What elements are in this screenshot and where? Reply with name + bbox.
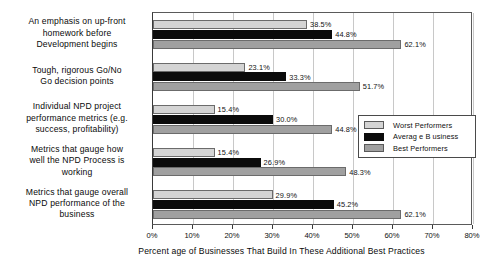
bar-worst[interactable] <box>153 190 273 199</box>
legend-label-worst: Worst Performers <box>393 121 452 130</box>
bar-value-label: 48.3% <box>349 168 370 177</box>
x-axis-tickmark <box>392 225 393 229</box>
bar-value-label: 44.8% <box>335 30 356 39</box>
legend-item-average-business[interactable]: Averag e B usiness <box>364 132 470 142</box>
bar-value-label: 45.2% <box>337 200 358 209</box>
bar-best[interactable] <box>153 167 346 176</box>
y-axis-category-label: Tough, rigorous Go/No Go decision points <box>4 65 150 88</box>
legend: Worst Performers Averag e B usiness Best… <box>358 115 476 158</box>
bar-value-label: 29.9% <box>276 191 297 200</box>
y-axis-category-label: Metrics that gauge overall NPD performan… <box>4 187 150 221</box>
bar-average[interactable] <box>153 115 273 124</box>
legend-swatch-icon-average <box>364 133 384 141</box>
bar-value-label: 26.9% <box>264 158 285 167</box>
bar-average[interactable] <box>153 72 286 81</box>
x-axis-tickmark <box>472 225 473 229</box>
bar-best[interactable] <box>153 125 332 134</box>
bar-best[interactable] <box>153 82 360 91</box>
bar-worst[interactable] <box>153 20 307 29</box>
legend-swatch-icon-best <box>364 144 384 152</box>
x-axis-tick-label: 40% <box>304 231 319 241</box>
legend-label-best: Best Performers <box>393 144 448 153</box>
x-axis-title: Percent age of Businesses That Build In … <box>0 246 489 256</box>
bar-value-label: 15.4% <box>218 148 239 157</box>
x-axis-tick-label: 20% <box>224 231 239 241</box>
bar-value-label: 15.4% <box>218 105 239 114</box>
bar-value-label: 51.7% <box>363 82 384 91</box>
x-axis-tickmark <box>432 225 433 229</box>
x-axis-tick-label: 60% <box>384 231 399 241</box>
bar-best[interactable] <box>153 210 401 219</box>
x-axis-tick-label: 80% <box>464 231 479 241</box>
bar-best[interactable] <box>153 40 401 49</box>
bar-value-label: 38.5% <box>310 20 331 29</box>
bar-value-label: 23.1% <box>248 63 269 72</box>
y-axis-category-label: Metrics that gauge how well the NPD Proc… <box>4 144 150 178</box>
y-axis-category-label: Individual NPD project performance metri… <box>4 101 150 135</box>
legend-item-worst-performers[interactable]: Worst Performers <box>364 120 470 130</box>
bar-value-label: 44.8% <box>335 125 356 134</box>
x-axis-tick-label: 50% <box>344 231 359 241</box>
x-axis-tickmark <box>352 225 353 229</box>
bar-chart: An emphasis on up-front homework before … <box>0 0 489 269</box>
bar-value-label: 33.3% <box>289 73 310 82</box>
bar-value-label: 62.1% <box>404 210 425 219</box>
bar-worst[interactable] <box>153 148 215 157</box>
x-axis-tick-labels: 0%10%20%30%40%50%60%70%80% <box>0 231 489 243</box>
x-axis-tick-label: 30% <box>264 231 279 241</box>
legend-swatch-icon-worst <box>364 121 384 129</box>
x-axis-tickmark <box>232 225 233 229</box>
x-axis-tick-label: 0% <box>147 231 158 241</box>
bar-value-label: 62.1% <box>404 40 425 49</box>
x-axis-title-text: Percent age of Businesses That Build In … <box>64 246 424 256</box>
x-axis-tickmark <box>312 225 313 229</box>
bar-average[interactable] <box>153 30 332 39</box>
x-axis-tick-label: 10% <box>184 231 199 241</box>
legend-label-average: Averag e B usiness <box>393 132 458 141</box>
bar-worst[interactable] <box>153 105 215 114</box>
bar-average[interactable] <box>153 158 261 167</box>
bar-worst[interactable] <box>153 63 245 72</box>
bar-average[interactable] <box>153 200 334 209</box>
y-axis-category-labels: An emphasis on up-front homework before … <box>4 12 150 225</box>
bar-value-label: 30.0% <box>276 115 297 124</box>
x-axis-tickmark <box>152 225 153 229</box>
x-axis-tickmark <box>192 225 193 229</box>
y-axis-category-label: An emphasis on up-front homework before … <box>4 16 150 50</box>
x-axis-tick-label: 70% <box>424 231 439 241</box>
x-axis-tickmark <box>272 225 273 229</box>
legend-item-best-performers[interactable]: Best Performers <box>364 143 470 153</box>
